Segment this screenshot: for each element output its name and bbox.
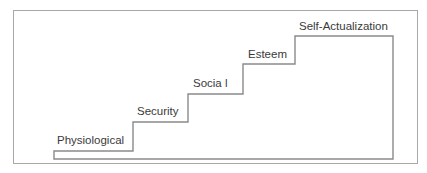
step-label-esteem: Esteem: [248, 49, 287, 61]
step-label-security: Security: [137, 106, 179, 118]
step-label-physiological: Physiological: [57, 135, 124, 147]
step-label-self-actualization: Self-Actualization: [299, 21, 388, 33]
step-label-social: Socia l: [193, 78, 228, 90]
